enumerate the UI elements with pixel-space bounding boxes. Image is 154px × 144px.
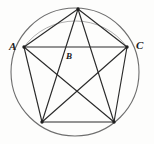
- vertex-point-left: [22, 45, 25, 48]
- vertex-label-c: C: [136, 40, 143, 51]
- chord-right-bottom_left: [42, 47, 127, 122]
- chord-left-bottom_left: [24, 47, 42, 122]
- vertex-label-b: B: [66, 52, 72, 61]
- chord-left-top: [24, 9, 78, 47]
- vertex-point-right: [125, 45, 128, 48]
- vertex-point-bottom_right: [112, 120, 115, 123]
- upper-arc: [24, 21, 127, 47]
- geometry-canvas: [0, 0, 154, 144]
- chord-top-bottom_right: [78, 9, 114, 122]
- chord-top-bottom_left: [42, 9, 78, 122]
- chord-group: [24, 9, 127, 122]
- chord-right-bottom_right: [114, 47, 127, 122]
- vertex-label-a: A: [9, 41, 16, 52]
- vertex-point-top: [76, 7, 79, 10]
- vertex-point-bottom_left: [40, 120, 43, 123]
- geometry-figure: A B C: [0, 0, 154, 144]
